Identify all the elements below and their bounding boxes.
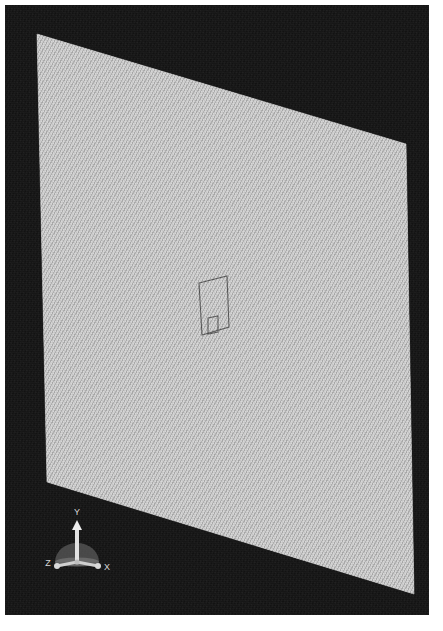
axis-y-label: Y [74, 507, 80, 517]
axis-y-arrowhead [72, 520, 82, 530]
axis-z-endpoint [54, 563, 60, 569]
orientation-axis-triad[interactable]: Y X Z [41, 500, 113, 578]
axis-x-endpoint [95, 563, 101, 569]
viewport-canvas[interactable]: Y X Z [5, 5, 429, 615]
triad-origin-marker [74, 559, 79, 564]
axis-z-label: Z [45, 558, 51, 568]
screenshot-root: Y X Z [0, 0, 443, 631]
axis-x-label: X [104, 562, 110, 572]
